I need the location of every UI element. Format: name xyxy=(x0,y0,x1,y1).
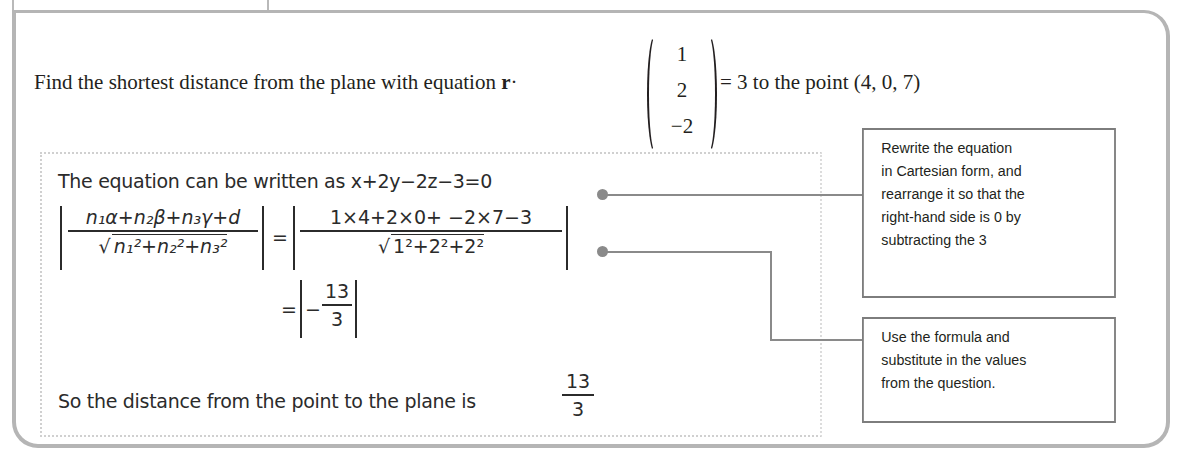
formula-fraction: n₁α+n₂β+n₃γ+d √n₁²+n₂²+n₃² xyxy=(68,206,258,257)
connector-line-2a xyxy=(604,251,772,253)
question-suffix: = 3 to the point (4, 0, 7) xyxy=(720,70,920,95)
connector-line-1 xyxy=(604,194,862,196)
working-line-1: The equation can be written as x+2y−2z−3… xyxy=(58,170,492,192)
equals-2: = xyxy=(281,298,297,320)
callout-formula: Use the formula and substitute in the va… xyxy=(862,317,1116,423)
abs-bar-right-2 xyxy=(566,206,568,270)
vector-component-2: 2 xyxy=(647,78,717,103)
formula-numerator: n₁α+n₂β+n₃γ+d xyxy=(86,206,241,228)
abs-bar-right-1 xyxy=(262,206,264,270)
substitution-fraction: 1×4+2×0+ −2×7−3 √1²+2²+2² xyxy=(300,206,562,257)
cartesian-equation: x+2y−2z−3=0 xyxy=(351,170,492,192)
abs-bar-left-3 xyxy=(300,280,302,338)
callout-rewrite: Rewrite the equation in Cartesian form, … xyxy=(862,128,1116,298)
formula-denominator: √n₁²+n₂²+n₃² xyxy=(99,234,228,257)
vector-component-1: 1 xyxy=(647,42,717,67)
dot-operator: · xyxy=(510,70,517,94)
normal-vector: 1 2 −2 xyxy=(647,34,717,152)
question-prefix: Find the shortest distance from the plan… xyxy=(34,70,517,95)
substitution-numerator: 1×4+2×0+ −2×7−3 xyxy=(330,206,532,228)
vector-component-3: −2 xyxy=(647,114,717,139)
substitution-denominator: √1²+2²+2² xyxy=(378,234,484,257)
abs-bar-left-1 xyxy=(60,206,62,270)
abs-bar-left-2 xyxy=(293,206,295,270)
equals-1: = xyxy=(272,226,288,248)
connector-line-2c xyxy=(770,339,862,341)
result-sign: − xyxy=(305,298,321,320)
result-fraction: 13 3 xyxy=(322,280,352,330)
abs-bar-right-3 xyxy=(355,280,357,338)
conclusion-text: So the distance from the point to the pl… xyxy=(58,390,476,412)
connector-line-2b xyxy=(770,251,772,341)
conclusion-fraction: 13 3 xyxy=(562,370,594,420)
